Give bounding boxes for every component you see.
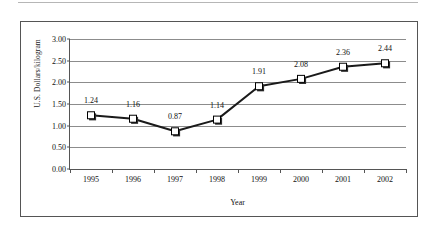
chart-frame: U.S. Dollars/kilogram 0.000.501.001.502.… xyxy=(20,21,418,217)
x-tick-mark xyxy=(112,169,113,173)
y-axis-title: U.S. Dollars/kilogram xyxy=(33,14,42,134)
x-tick-mark xyxy=(406,169,407,173)
x-tick-label: 1996 xyxy=(125,175,141,184)
y-tick-label: 1.00 xyxy=(52,121,66,130)
x-tick-mark xyxy=(238,169,239,173)
top-horizontal-rule xyxy=(18,2,418,3)
y-tick-label: 0.00 xyxy=(52,165,66,174)
x-tick-mark xyxy=(280,169,281,173)
line-series xyxy=(70,39,406,169)
data-point-marker[interactable] xyxy=(256,83,263,90)
data-point-marker[interactable] xyxy=(172,128,179,135)
data-label: 1.24 xyxy=(84,96,98,105)
x-tick-mark xyxy=(196,169,197,173)
data-label: 2.44 xyxy=(378,44,392,53)
data-label: 0.87 xyxy=(168,112,182,121)
x-tick-mark xyxy=(364,169,365,173)
data-point-marker[interactable] xyxy=(130,115,137,122)
x-tick-mark xyxy=(154,169,155,173)
x-tick-mark xyxy=(322,169,323,173)
x-tick-label: 1998 xyxy=(209,175,225,184)
data-point-marker[interactable] xyxy=(340,63,347,70)
x-tick-label: 2000 xyxy=(293,175,309,184)
y-tick-label: 2.50 xyxy=(52,56,66,65)
plot-area: 0.000.501.001.502.002.503.00 19951996199… xyxy=(69,39,406,170)
data-point-marker[interactable] xyxy=(88,112,95,119)
x-tick-mark xyxy=(70,169,71,173)
y-tick-label: 2.00 xyxy=(52,78,66,87)
data-label: 1.14 xyxy=(210,101,224,110)
x-axis-title: Year xyxy=(69,198,406,207)
data-point-marker[interactable] xyxy=(382,60,389,67)
x-tick-label: 1997 xyxy=(167,175,183,184)
data-label: 2.36 xyxy=(336,48,350,57)
data-label: 1.91 xyxy=(252,67,266,76)
x-tick-label: 2002 xyxy=(377,175,393,184)
data-label: 2.08 xyxy=(294,60,308,69)
y-tick-label: 3.00 xyxy=(52,35,66,44)
x-tick-label: 1999 xyxy=(251,175,267,184)
y-tick-label: 0.50 xyxy=(52,143,66,152)
x-tick-label: 1995 xyxy=(83,175,99,184)
y-tick-label: 1.50 xyxy=(52,100,66,109)
data-label: 1.16 xyxy=(126,100,140,109)
data-point-marker[interactable] xyxy=(214,116,221,123)
x-tick-label: 2001 xyxy=(335,175,351,184)
data-point-marker[interactable] xyxy=(298,75,305,82)
